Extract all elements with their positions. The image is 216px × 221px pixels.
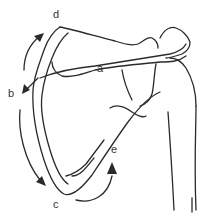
acromion (160, 27, 190, 58)
scapula-diagram (0, 0, 216, 221)
label-e: e (111, 144, 117, 155)
scapular-spine-upper (40, 44, 186, 78)
label-d: d (53, 9, 59, 20)
scapula-inner-border (41, 33, 68, 184)
scapular-neck (110, 70, 146, 117)
lateral-border-inner (66, 140, 104, 176)
scapula-outline (33, 27, 160, 195)
label-a: a (97, 63, 103, 74)
superior-border (60, 27, 158, 48)
scapular-spine-lower (52, 56, 186, 77)
arrow-b-head (22, 84, 30, 94)
label-b: b (8, 88, 14, 99)
arrow-c-shaft (20, 110, 40, 180)
arrow-d-shaft (24, 36, 40, 70)
arrow-e-head (107, 162, 117, 174)
arrow-e-shaft (76, 176, 112, 201)
label-c: c (53, 199, 59, 210)
humerus-shaft (168, 106, 196, 210)
